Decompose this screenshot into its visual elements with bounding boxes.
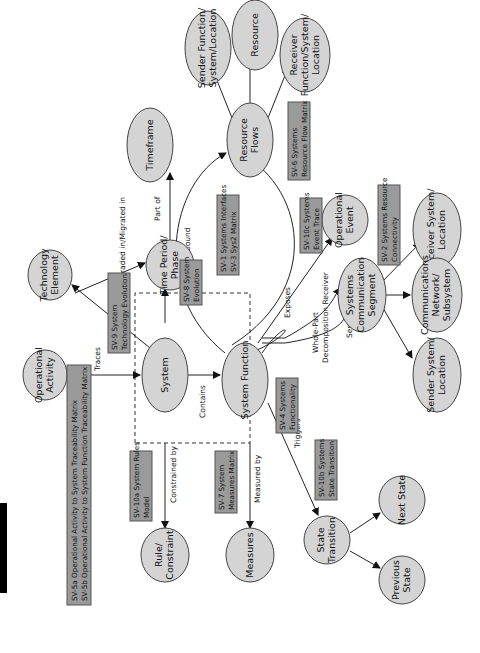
svg-text:SV-1 Systems Interfaces: SV-1 Systems Interfaces (219, 184, 228, 272)
box-sv1[interactable]: SV-1 Systems Interfaces SV-3 Sys2 Matrix (217, 184, 239, 275)
svg-text:Technology Evolution: Technology Evolution (120, 274, 129, 351)
box-sv2[interactable]: SV-2 Systems Resource Connectivity (378, 177, 400, 265)
svg-text:System: System (159, 357, 170, 392)
svg-text:Event: Event (344, 206, 355, 233)
node-sender-system-location[interactable]: Sender System/ Location (413, 337, 461, 413)
svg-text:SV-3 Sys2 Matrix: SV-3 Sys2 Matrix (229, 211, 238, 272)
svg-text:System Function: System Function (239, 341, 250, 420)
svg-text:SV-10b Systems: SV-10b Systems (317, 439, 326, 497)
label-traces: Traces (93, 347, 102, 372)
node-system[interactable]: System (142, 338, 188, 412)
svg-text:SV-2 Systems Resource: SV-2 Systems Resource (380, 177, 389, 262)
svg-text:Receiver: Receiver (288, 34, 299, 75)
label-contains: Contains (198, 385, 207, 418)
box-sv10a[interactable]: SV-10a System Rules Model (130, 442, 152, 521)
svg-text:Next State: Next State (396, 475, 407, 525)
box-sv6[interactable]: SV-6 Systems Resource Flow Matrix (288, 100, 310, 180)
svg-text:SV-9 System: SV-9 System (110, 305, 119, 350)
svg-text:SV-8 System: SV-8 System (182, 257, 191, 302)
box-sv7[interactable]: SV-7 System Measures Matrix (215, 450, 237, 513)
svg-text:Rule/: Rule/ (153, 542, 164, 567)
svg-text:Segment: Segment (366, 273, 377, 316)
node-resource[interactable]: Resource (232, 0, 278, 70)
svg-text:Sender System/: Sender System/ (425, 337, 436, 413)
box-sv10b[interactable]: SV-10b Systems State Transition (315, 439, 337, 500)
box-sv8[interactable]: SV-8 System Evolution (180, 257, 202, 305)
node-timeframe[interactable]: Timeframe (127, 108, 173, 182)
svg-text:Flows: Flows (249, 127, 260, 154)
svg-text:Resource: Resource (249, 13, 260, 57)
svg-text:Connectivity: Connectivity (390, 216, 399, 262)
svg-text:System/Location: System/Location (207, 9, 218, 88)
label-exposes: Exposes (283, 287, 292, 318)
box-sv9[interactable]: SV-9 System Technology Evolution (108, 273, 130, 353)
svg-text:SV-10c Systems: SV-10c Systems (302, 192, 311, 250)
node-systems-comm-segment[interactable]: Systems Communication Segment (338, 258, 386, 333)
svg-text:Evolution: Evolution (192, 268, 201, 302)
svg-text:Activity: Activity (44, 357, 55, 393)
label-constrained: Constrained by (169, 446, 178, 503)
svg-text:Resource: Resource (238, 118, 249, 162)
node-resource-flows[interactable]: Resource Flows (227, 103, 273, 177)
svg-text:Operational: Operational (33, 347, 44, 403)
title-block (0, 503, 7, 593)
svg-text:Operational: Operational (333, 192, 344, 248)
svg-text:Previous: Previous (390, 560, 401, 600)
node-system-function[interactable]: System Function (222, 341, 268, 420)
svg-text:Element: Element (49, 255, 60, 295)
svg-text:Time Period/: Time Period/ (158, 235, 169, 296)
diagram-stage: Traces Upgraded in/Migrated in Part of C… (0, 0, 480, 653)
svg-text:Measures Matrix: Measures Matrix (227, 450, 236, 510)
box-sv5[interactable]: SV-5a Operational Activity to System Tra… (67, 365, 91, 605)
svg-text:Location: Location (436, 355, 447, 395)
svg-text:Event Trace: Event Trace (312, 207, 321, 250)
svg-text:Sender Function/: Sender Function/ (196, 7, 207, 88)
svg-text:State Transition: State Transition (327, 441, 336, 497)
svg-text:SV-4 Systems: SV-4 Systems (278, 381, 287, 430)
svg-text:Technology: Technology (38, 248, 49, 303)
svg-text:SV-5a Operational Activity to: SV-5a Operational Activity to System Tra… (70, 399, 79, 601)
node-state-transition[interactable]: State Transition (304, 516, 350, 564)
svg-text:State: State (401, 567, 412, 592)
svg-text:Communication: Communication (355, 258, 366, 333)
svg-text:SV-10a System Rules: SV-10a System Rules (132, 442, 141, 518)
svg-text:Location: Location (310, 35, 321, 75)
node-rule-constraint[interactable]: Rule/ Constraint (141, 528, 189, 582)
node-communications-network[interactable]: Communications Network/ Subsystem (412, 255, 462, 335)
label-measured: Measured by (253, 454, 262, 503)
svg-text:Resource Flow Matrix: Resource Flow Matrix (300, 100, 309, 177)
svg-text:Communications: Communications (419, 255, 430, 335)
node-operational-event[interactable]: Operational Event (322, 192, 368, 248)
box-sv4[interactable]: SV-4 Systems Functionality (276, 378, 298, 433)
node-measures[interactable]: Measures (226, 528, 274, 582)
svg-text:Network/: Network/ (430, 273, 441, 317)
node-next-state[interactable]: Next State (379, 475, 425, 525)
svg-text:Subsystem: Subsystem (441, 269, 452, 321)
label-wholepart: Whole-Part (311, 312, 320, 353)
svg-text:SV-7 System: SV-7 System (217, 465, 226, 510)
box-sv10c[interactable]: SV-10c Systems Event Trace (300, 192, 322, 253)
svg-text:Function/System/: Function/System/ (299, 13, 310, 96)
rotated-canvas: Traces Upgraded in/Migrated in Part of C… (0, 0, 480, 653)
svg-text:State: State (315, 527, 326, 552)
svg-text:Location: Location (436, 210, 447, 250)
node-sender-function[interactable]: Sender Function/ System/Location (185, 7, 231, 88)
svg-text:Systems: Systems (344, 275, 355, 315)
node-technology-element[interactable]: Technology Element (28, 248, 72, 303)
svg-text:Timeframe: Timeframe (144, 119, 155, 172)
svg-text:Measures: Measures (244, 532, 255, 577)
svg-text:SV-5b Operational Activity to: SV-5b Operational Activity to System Fun… (80, 366, 89, 601)
svg-text:SV-6 Systems: SV-6 Systems (290, 128, 299, 177)
node-receiver-function[interactable]: Receiver Function/System/ Location (280, 13, 330, 96)
svg-text:Constraint: Constraint (164, 530, 175, 580)
label-decomp: Decomposition Receiver (321, 271, 330, 363)
label-partof: Part of (153, 196, 162, 221)
svg-text:Model: Model (142, 496, 151, 518)
node-previous-state[interactable]: Previous State (379, 556, 425, 604)
svg-text:Functionality: Functionality (288, 383, 297, 430)
node-operational-activity[interactable]: Operational Activity (23, 347, 67, 403)
svg-text:Transition: Transition (326, 517, 337, 564)
svg-text:Phase: Phase (169, 251, 180, 280)
